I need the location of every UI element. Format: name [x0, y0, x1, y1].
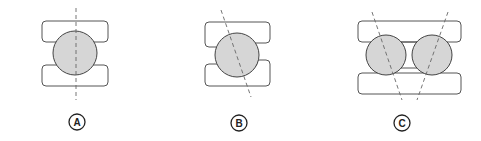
ball-b	[215, 33, 259, 77]
ball-a	[53, 31, 97, 75]
ball-c-left	[366, 35, 406, 75]
label-a: A	[69, 114, 85, 130]
inner-race-c	[358, 73, 461, 94]
label-text-c: C	[398, 118, 405, 129]
figure-a: A	[42, 8, 108, 130]
figure-b: B	[205, 10, 270, 131]
label-text-b: B	[235, 118, 242, 129]
label-b: B	[231, 115, 247, 131]
figure-c: C	[358, 12, 461, 131]
label-c: C	[394, 115, 410, 131]
bearing-diagram: A B C	[0, 0, 481, 141]
ball-c-right	[412, 35, 452, 75]
label-text-a: A	[73, 117, 80, 128]
